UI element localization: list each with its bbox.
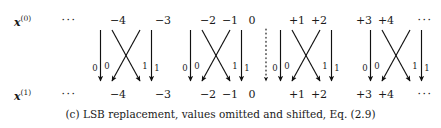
bit-label-g2-inner-right: 1 [229, 62, 241, 71]
output-right-ellipsis: ··· [412, 88, 438, 102]
bit-label-g3-outer-left: 0 [269, 64, 281, 73]
bit-label-g4-inner-left: 0 [371, 62, 383, 71]
bit-label-g2-inner-left: 0 [191, 62, 203, 71]
bit-label-g4-outer-right: 1 [421, 64, 433, 73]
bit-label-g1-inner-left: 0 [101, 62, 113, 71]
bit-label-g1-outer-left: 0 [89, 64, 101, 73]
output-value-minus-3: −3 [150, 88, 176, 102]
output-value-minus-4: −4 [105, 88, 131, 102]
bit-label-g3-inner-left: 0 [281, 62, 293, 71]
output-value-row: ··· −4 −3 −2 −1 0 +1 +2 +3 +4 ··· [0, 88, 441, 102]
output-value-plus-2: +2 [306, 88, 332, 102]
arrow-group-minus-2-minus-1 [191, 30, 242, 81]
bit-label-g2-outer-left: 0 [179, 64, 191, 73]
bit-label-g1-inner-right: 1 [139, 62, 151, 71]
bit-label-g2-outer-right: 1 [241, 64, 253, 73]
bit-label-g1-outer-right: 1 [151, 64, 163, 73]
arrow-group-minus-4-minus-3 [101, 30, 152, 81]
bit-label-g3-outer-right: 1 [331, 64, 343, 73]
arrow-group-plus-1-plus-2 [281, 30, 332, 81]
bit-label-g4-inner-right: 1 [409, 62, 421, 71]
bit-label-g4-outer-left: 0 [359, 64, 371, 73]
bit-label-g3-inner-right: 1 [319, 62, 331, 71]
output-value-plus-4: +4 [373, 88, 399, 102]
figure-lsb-replacement-shifted: x(0) ··· −4 −3 −2 −1 0 +1 +2 +3 +4 ··· [0, 0, 441, 128]
figure-caption: (c) LSB replacement, values omitted and … [0, 108, 441, 121]
arrow-group-plus-3-plus-4 [371, 30, 422, 81]
output-value-zero: 0 [239, 88, 265, 102]
output-left-ellipsis: ··· [56, 88, 82, 102]
